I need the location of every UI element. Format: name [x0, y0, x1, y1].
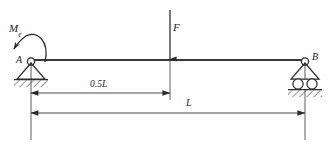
moment-symbol: M	[9, 22, 18, 34]
support-label-b: B	[312, 52, 318, 62]
moment-label: Me	[9, 23, 22, 37]
beam-diagram: Me F A B 0.5L L	[0, 0, 333, 152]
dimension-extension-lines	[31, 60, 305, 140]
beam-diagram-canvas	[0, 0, 333, 152]
support-label-a: A	[16, 55, 22, 65]
moment-subscript: e	[18, 30, 21, 39]
dimension-label-full-span: L	[186, 98, 192, 108]
force-label: F	[173, 22, 180, 33]
dimension-label-half-span: 0.5L	[90, 80, 107, 90]
